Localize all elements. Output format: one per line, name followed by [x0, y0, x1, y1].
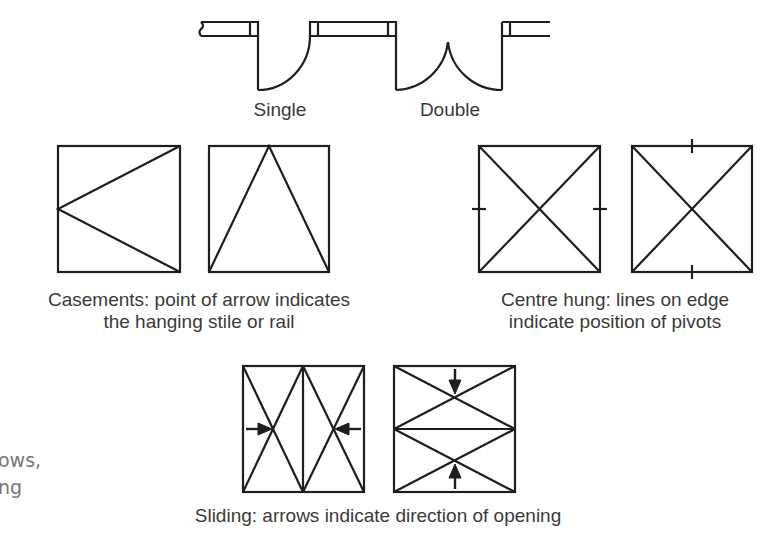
arrow-left-icon: [335, 423, 361, 435]
casements-caption-line1: Casements: point of arrow indicates: [34, 289, 364, 311]
arrow-down-icon: [449, 369, 461, 394]
sliding-caption: Sliding: arrows indicate direction of op…: [148, 505, 608, 527]
wall-segment-middle: [318, 22, 396, 36]
centre-hung-caption-line2: indicate position of pivots: [460, 311, 762, 333]
centre-hung-horizontal-pivot-symbol: [472, 146, 607, 272]
arrow-up-icon: [449, 464, 461, 489]
diagram-graphics: [0, 0, 762, 533]
casement-top-hung-symbol: [209, 146, 329, 272]
casement-side-hung-symbol: [58, 146, 180, 272]
door-double-symbol: [396, 22, 550, 90]
side-text-line1: ows,: [0, 447, 41, 474]
window-door-symbols-diagram: Single Double Casements: point of arrow …: [0, 0, 762, 533]
arrow-right-icon: [246, 423, 272, 435]
door-single-symbol: [200, 22, 319, 90]
centre-hung-vertical-pivot-symbol: [632, 139, 752, 279]
door-double-label: Double: [400, 99, 500, 121]
centre-hung-caption-line1: Centre hung: lines on edge: [460, 289, 762, 311]
side-text-line2: ng: [0, 474, 22, 501]
door-single-label: Single: [230, 99, 330, 121]
casements-caption-line2: the hanging stile or rail: [34, 311, 364, 333]
